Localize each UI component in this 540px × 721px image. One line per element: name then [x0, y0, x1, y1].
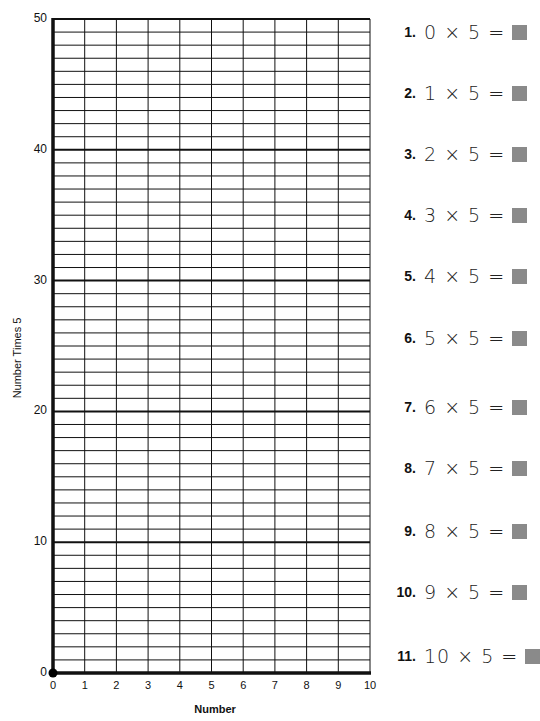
- problem-number: 10.: [372, 584, 416, 600]
- problem-number: 6.: [372, 330, 416, 346]
- problem-expression: 3 × 5 =: [424, 204, 505, 226]
- problem-expression: 6 × 5 =: [424, 396, 505, 418]
- y-tick-label: 50: [17, 12, 47, 24]
- problem-item: 4.3 × 5 =: [372, 203, 527, 227]
- x-tick-label: 4: [170, 679, 190, 691]
- problem-item: 7.6 × 5 =: [372, 395, 527, 419]
- problem-number: 4.: [372, 207, 416, 223]
- problem-item: 11.10 × 5 =: [372, 644, 540, 668]
- x-tick-label: 3: [138, 679, 158, 691]
- problem-expression: 2 × 5 =: [424, 143, 505, 165]
- problem-expression: 7 × 5 =: [424, 457, 505, 479]
- x-tick-label: 2: [106, 679, 126, 691]
- answer-box[interactable]: [512, 461, 527, 476]
- problem-number: 3.: [372, 146, 416, 162]
- x-tick-label: 7: [265, 679, 285, 691]
- problem-number: 7.: [372, 399, 416, 415]
- y-tick-label: 40: [17, 143, 47, 155]
- answer-box[interactable]: [512, 400, 527, 415]
- problem-expression: 1 × 5 =: [424, 82, 505, 104]
- answer-box[interactable]: [512, 25, 527, 40]
- problem-item: 9.8 × 5 =: [372, 519, 527, 543]
- problem-item: 1.0 × 5 =: [372, 20, 527, 44]
- x-tick-label: 10: [360, 679, 380, 691]
- x-tick-label: 6: [233, 679, 253, 691]
- problem-item: 2.1 × 5 =: [372, 81, 527, 105]
- x-tick-label: 0: [43, 679, 63, 691]
- problem-item: 5.4 × 5 =: [372, 264, 527, 288]
- answer-box[interactable]: [512, 269, 527, 284]
- problem-number: 9.: [372, 523, 416, 539]
- x-tick-label: 8: [297, 679, 317, 691]
- answer-box[interactable]: [512, 208, 527, 223]
- answer-box[interactable]: [512, 331, 527, 346]
- answer-box[interactable]: [512, 524, 527, 539]
- problem-expression: 0 × 5 =: [424, 21, 505, 43]
- x-tick-label: 5: [202, 679, 222, 691]
- plotted-point: [49, 669, 58, 678]
- x-tick-label: 9: [328, 679, 348, 691]
- problem-item: 3.2 × 5 =: [372, 142, 527, 166]
- y-tick-label: 20: [17, 404, 47, 416]
- x-axis-title: Number: [185, 703, 245, 715]
- x-tick-label: 1: [75, 679, 95, 691]
- problem-expression: 4 × 5 =: [424, 265, 505, 287]
- answer-box[interactable]: [512, 147, 527, 162]
- problem-expression: 10 × 5 =: [424, 645, 518, 667]
- y-tick-label: 0: [17, 666, 47, 678]
- problem-expression: 9 × 5 =: [424, 581, 505, 603]
- problem-expression: 8 × 5 =: [424, 520, 505, 542]
- answer-box[interactable]: [512, 585, 527, 600]
- answer-box[interactable]: [525, 649, 540, 664]
- y-tick-label: 30: [17, 274, 47, 286]
- problem-item: 6.5 × 5 =: [372, 326, 527, 350]
- y-axis-title: Number Times 5: [11, 303, 23, 413]
- problem-number: 1.: [372, 24, 416, 40]
- y-tick-label: 10: [17, 535, 47, 547]
- problem-number: 11.: [372, 648, 416, 664]
- answer-box[interactable]: [512, 86, 527, 101]
- problem-expression: 5 × 5 =: [424, 327, 505, 349]
- problem-item: 10.9 × 5 =: [372, 580, 527, 604]
- problem-number: 8.: [372, 460, 416, 476]
- problem-item: 8.7 × 5 =: [372, 456, 527, 480]
- problem-number: 5.: [372, 268, 416, 284]
- problem-number: 2.: [372, 85, 416, 101]
